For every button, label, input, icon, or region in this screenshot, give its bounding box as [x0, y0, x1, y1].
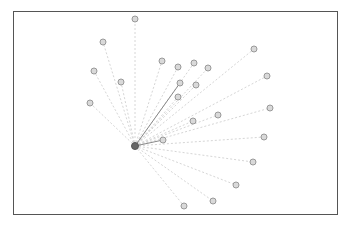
leaf-node-n13	[190, 118, 196, 124]
edge-n5-dashed	[90, 103, 135, 146]
leaf-node-n15	[160, 137, 166, 143]
leaf-node-n7	[175, 64, 181, 70]
leaf-node-n2	[100, 39, 106, 45]
leaf-node-n19	[261, 134, 267, 140]
leaf-node-n9	[205, 65, 211, 71]
edge-n18-dashed	[135, 108, 270, 146]
leaf-node-n23	[181, 203, 187, 209]
leaf-node-n1	[132, 16, 138, 22]
leaf-node-n4	[118, 79, 124, 85]
leaf-node-n10	[177, 80, 183, 86]
leaf-node-n16	[251, 46, 257, 52]
edge-n17-dashed	[135, 76, 267, 146]
leaf-node-n3	[91, 68, 97, 74]
edge-n11-dashed	[135, 85, 196, 146]
edge-n12-dashed	[135, 97, 178, 146]
edge-n21-dashed	[135, 146, 236, 185]
leaf-node-n6	[159, 58, 165, 64]
leaf-node-n8	[191, 60, 197, 66]
leaf-node-n11	[193, 82, 199, 88]
edge-n20-dashed	[135, 146, 253, 162]
edge-n9-dashed	[135, 68, 208, 146]
leaf-node-n20	[250, 159, 256, 165]
leaf-node-n18	[267, 105, 273, 111]
leaf-node-n22	[210, 198, 216, 204]
hub-node	[132, 143, 139, 150]
leaf-node-n17	[264, 73, 270, 79]
edge-n3-dashed	[94, 71, 135, 146]
edge-n14-dashed	[135, 115, 218, 146]
edge-n23-dashed	[135, 146, 184, 206]
leaf-node-n14	[215, 112, 221, 118]
edge-n4-dashed	[121, 82, 135, 146]
leaf-nodes-layer	[87, 16, 273, 209]
star-graph-canvas	[0, 0, 347, 226]
hub-layer	[132, 143, 139, 150]
edge-n22-dashed	[135, 146, 213, 201]
edge-n2-dashed	[103, 42, 135, 146]
leaf-node-n21	[233, 182, 239, 188]
leaf-node-n12	[175, 94, 181, 100]
leaf-node-n5	[87, 100, 93, 106]
edges-layer	[90, 19, 270, 206]
